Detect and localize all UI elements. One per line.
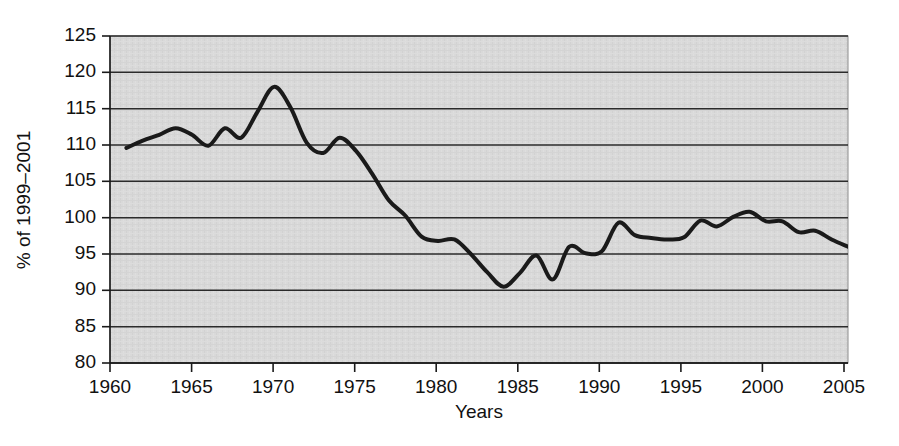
x-tick-label: 1975	[334, 376, 376, 397]
plot-area-background	[110, 36, 848, 363]
line-chart-figure: 125 120 115 110 105 100 95 90 85 80 1960…	[0, 0, 899, 446]
x-tick-label: 2005	[823, 376, 865, 397]
x-tick-label: 1965	[170, 376, 212, 397]
y-tick-label: 85	[75, 315, 96, 336]
x-tick-label: 1985	[497, 376, 539, 397]
x-tick-label: 1960	[89, 376, 131, 397]
x-tick-marks	[110, 363, 844, 372]
y-tick-label: 90	[75, 278, 96, 299]
y-tick-label: 110	[66, 133, 96, 154]
y-tick-marks	[102, 36, 110, 363]
x-tick-labels: 1960 1965 1970 1975 1980 1985 1990 1995 …	[89, 376, 865, 397]
y-tick-label: 95	[75, 242, 96, 263]
x-axis-title: Years	[455, 401, 503, 422]
y-tick-label: 120	[64, 60, 96, 81]
x-tick-label: 1995	[660, 376, 702, 397]
x-tick-label: 1970	[252, 376, 294, 397]
y-tick-label: 105	[64, 169, 96, 190]
y-axis-title: % of 1999–2001	[13, 131, 34, 269]
y-tick-label: 115	[66, 97, 96, 118]
y-tick-label: 80	[75, 351, 96, 372]
x-tick-label: 2000	[741, 376, 783, 397]
y-tick-label: 125	[64, 24, 96, 45]
y-tick-label: 100	[64, 206, 96, 227]
chart-canvas: 125 120 115 110 105 100 95 90 85 80 1960…	[0, 0, 899, 446]
x-tick-label: 1990	[578, 376, 620, 397]
y-tick-labels: 125 120 115 110 105 100 95 90 85 80	[64, 24, 96, 372]
x-tick-label: 1980	[415, 376, 457, 397]
